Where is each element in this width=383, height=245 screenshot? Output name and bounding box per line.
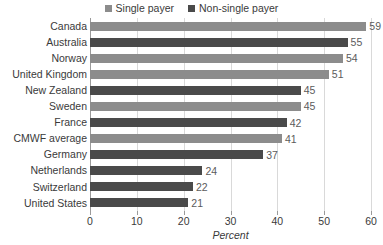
bar-row: 21 xyxy=(90,195,371,211)
category-label: Australia xyxy=(0,34,87,50)
category-label: Switzerland xyxy=(0,179,87,195)
category-label: Norway xyxy=(0,50,87,66)
bar[interactable]: 45 xyxy=(90,86,301,95)
gridline xyxy=(371,18,372,211)
bar-value-label: 59 xyxy=(369,21,381,32)
bar[interactable]: 21 xyxy=(90,198,188,207)
bar[interactable]: 51 xyxy=(90,70,329,79)
legend-label-single-payer: Single payer xyxy=(116,3,174,14)
x-tick-label: 20 xyxy=(178,216,190,227)
bar[interactable]: 24 xyxy=(90,166,202,175)
legend-entry-single-payer[interactable]: Single payer xyxy=(105,3,174,14)
category-label: United Kingdom xyxy=(0,66,87,82)
bar-chart: Single payer Non-single payer CanadaAust… xyxy=(0,0,383,245)
legend-label-non-single-payer: Non-single payer xyxy=(199,3,278,14)
bar-row: 54 xyxy=(90,50,371,66)
bar-value-label: 21 xyxy=(191,198,203,209)
bar-value-label: 54 xyxy=(346,53,358,64)
bar[interactable]: 59 xyxy=(90,22,366,31)
bar-value-label: 45 xyxy=(304,101,316,112)
chart-legend: Single payer Non-single payer xyxy=(0,1,383,16)
bar-row: 41 xyxy=(90,131,371,147)
category-label: CMWF average xyxy=(0,131,87,147)
category-label: France xyxy=(0,114,87,130)
bar-row: 42 xyxy=(90,114,371,130)
bar-value-label: 45 xyxy=(304,85,316,96)
x-tick-label: 10 xyxy=(131,216,143,227)
bar-row: 37 xyxy=(90,147,371,163)
bar-row: 45 xyxy=(90,82,371,98)
x-tick-label: 60 xyxy=(365,216,377,227)
category-label: New Zealand xyxy=(0,82,87,98)
bar-row: 51 xyxy=(90,66,371,82)
plot-area: 595554514545424137242221 xyxy=(90,18,371,211)
x-axis-title: Percent xyxy=(90,230,371,241)
bar-value-label: 41 xyxy=(285,133,297,144)
category-label: United States xyxy=(0,195,87,211)
value-axis-ticks: 0102030405060 xyxy=(90,211,371,215)
bar-row: 55 xyxy=(90,34,371,50)
bar-value-label: 24 xyxy=(205,165,217,176)
bar-row: 22 xyxy=(90,179,371,195)
bar-value-label: 55 xyxy=(351,37,363,48)
bar[interactable]: 54 xyxy=(90,54,343,63)
x-tick-label: 40 xyxy=(271,216,283,227)
legend-swatch-single-payer xyxy=(105,5,112,12)
category-label: Netherlands xyxy=(0,163,87,179)
bar[interactable]: 22 xyxy=(90,182,193,191)
bar[interactable]: 42 xyxy=(90,118,287,127)
bar-row: 45 xyxy=(90,98,371,114)
bar[interactable]: 45 xyxy=(90,102,301,111)
category-label: Germany xyxy=(0,147,87,163)
bar[interactable]: 55 xyxy=(90,38,348,47)
bar-value-label: 42 xyxy=(290,117,302,128)
legend-swatch-non-single-payer xyxy=(188,5,195,12)
bar[interactable]: 37 xyxy=(90,150,263,159)
category-axis-labels: CanadaAustraliaNorwayUnited KingdomNew Z… xyxy=(0,18,87,211)
bar-value-label: 37 xyxy=(266,149,278,160)
x-tick-label: 0 xyxy=(87,216,93,227)
x-tick-label: 50 xyxy=(318,216,330,227)
category-label: Canada xyxy=(0,18,87,34)
bar-value-label: 51 xyxy=(332,69,344,80)
x-tick-label: 30 xyxy=(225,216,237,227)
bar-value-label: 22 xyxy=(196,182,208,193)
bar-row: 24 xyxy=(90,163,371,179)
bar-rows: 595554514545424137242221 xyxy=(90,18,371,211)
bar[interactable]: 41 xyxy=(90,134,282,143)
legend-entry-non-single-payer[interactable]: Non-single payer xyxy=(188,3,278,14)
category-label: Sweden xyxy=(0,98,87,114)
bar-row: 59 xyxy=(90,18,371,34)
